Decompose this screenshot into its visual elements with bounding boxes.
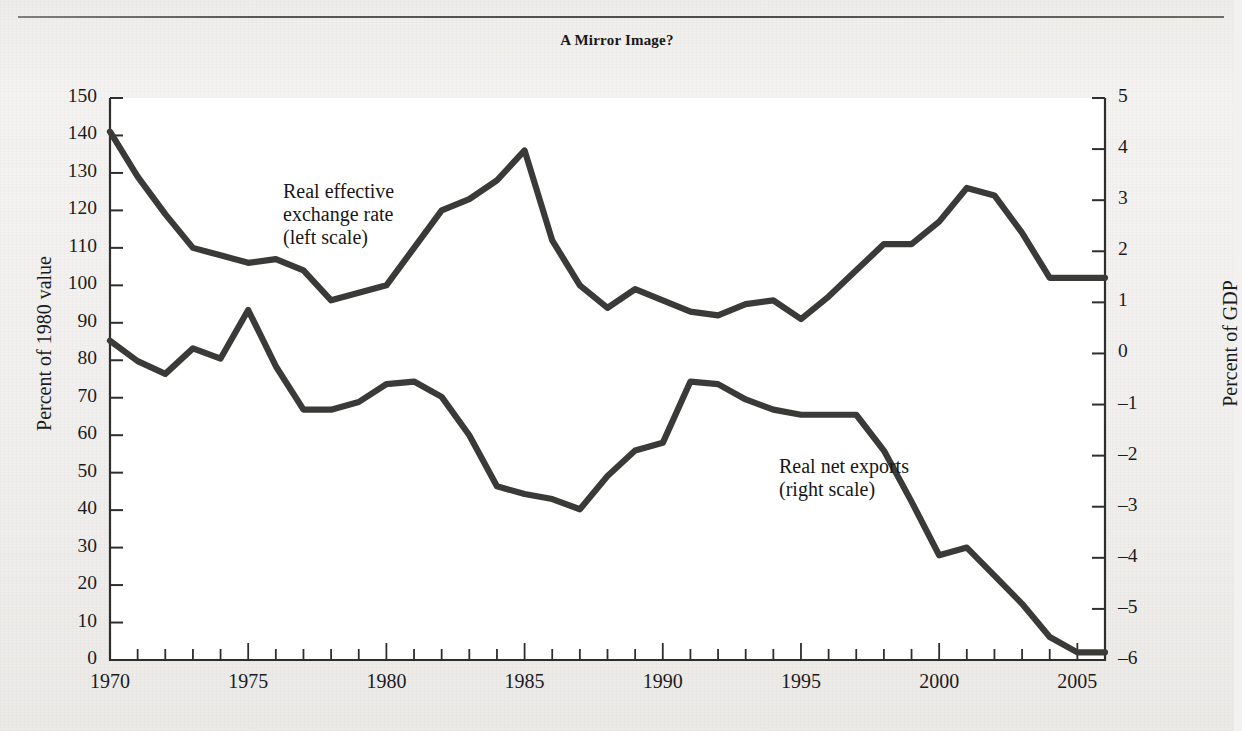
left-tick-label: 120 — [35, 197, 97, 219]
bottom-tick-label: 2005 — [1037, 670, 1117, 693]
right-tick-label: 3 — [1118, 187, 1180, 209]
line-real-effective-exchange-rate — [110, 132, 1105, 319]
bottom-tick-label: 1995 — [761, 670, 841, 693]
series-label-net-exports: Real net exports (right scale) — [779, 455, 909, 501]
right-tick-label: 1 — [1118, 289, 1180, 311]
right-axis-ticks — [1092, 98, 1105, 660]
left-tick-label: 20 — [35, 572, 97, 594]
left-tick-label: 70 — [35, 385, 97, 407]
series-label-exchange-rate: Real effective exchange rate (left scale… — [283, 180, 394, 249]
bottom-tick-label: 1985 — [485, 670, 565, 693]
right-tick-label: 2 — [1118, 238, 1180, 260]
plot-frame — [110, 98, 1105, 660]
left-axis-ticks — [110, 98, 123, 660]
left-tick-label: 150 — [35, 85, 97, 107]
left-tick-label: 10 — [35, 610, 97, 632]
right-tick-label: 4 — [1118, 136, 1180, 158]
right-tick-label: –4 — [1118, 545, 1180, 567]
left-tick-label: 100 — [35, 272, 97, 294]
bottom-tick-label: 2000 — [899, 670, 979, 693]
bottom-axis-ticks — [110, 643, 1105, 660]
right-tick-label: –5 — [1118, 596, 1180, 618]
left-tick-label: 140 — [35, 122, 97, 144]
right-tick-label: –2 — [1118, 443, 1180, 465]
bottom-tick-label: 1975 — [208, 670, 288, 693]
left-tick-label: 40 — [35, 497, 97, 519]
right-tick-label: 5 — [1118, 85, 1180, 107]
right-tick-label: 0 — [1118, 340, 1180, 362]
right-tick-label: –3 — [1118, 494, 1180, 516]
bottom-tick-label: 1980 — [346, 670, 426, 693]
line-real-net-exports — [110, 310, 1105, 652]
left-tick-label: 90 — [35, 310, 97, 332]
left-tick-label: 0 — [35, 647, 97, 669]
right-tick-label: –1 — [1118, 392, 1180, 414]
left-tick-label: 60 — [35, 422, 97, 444]
left-tick-label: 30 — [35, 535, 97, 557]
right-axis-title: Percent of GDP — [1219, 214, 1242, 474]
left-tick-label: 130 — [35, 160, 97, 182]
bottom-tick-label: 1990 — [623, 670, 703, 693]
left-tick-label: 110 — [35, 235, 97, 257]
right-tick-label: –6 — [1118, 647, 1180, 669]
left-tick-label: 50 — [35, 460, 97, 482]
left-tick-label: 80 — [35, 347, 97, 369]
bottom-tick-label: 1970 — [70, 670, 150, 693]
